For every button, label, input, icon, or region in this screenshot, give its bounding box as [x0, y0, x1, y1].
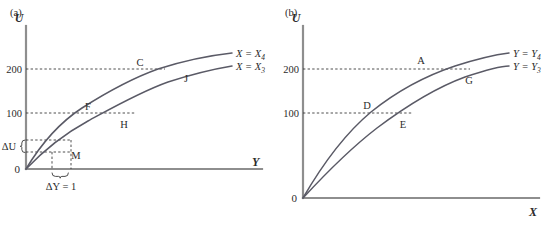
panel-a-curve-label-upper-text: X = X [235, 48, 262, 59]
panel-a-point-M: M [71, 150, 81, 161]
panel-b-curve-label-upper-text: Y = Y [513, 48, 538, 59]
panel-b-plot: (b) U X 0 200 100 Y = Y4 Y = Y3 A [273, 0, 553, 225]
panel-a-curve-label-lower-sub: 3 [260, 66, 265, 75]
panel-b-ytick-100: 100 [283, 108, 299, 119]
panel-a: (a) U Y 0 200 100 ΔU [0, 0, 276, 225]
panel-a-point-F: F [85, 101, 91, 112]
panel-a-y-axis-label: U [15, 11, 25, 25]
panel-a-point-H: H [120, 119, 128, 130]
panel-b-point-G: G [465, 75, 473, 86]
figure-container: (a) U Y 0 200 100 ΔU [0, 0, 553, 225]
panel-a-curve-label-upper-sub: 4 [261, 53, 265, 62]
panel-a-ytick-200: 200 [6, 64, 22, 75]
panel-b-curve-label-lower: Y = Y3 [513, 61, 541, 75]
panel-a-curve-label-upper: X = X4 [235, 48, 265, 62]
panel-a-deltay-brace [52, 173, 68, 178]
panel-a-curve-upper [26, 53, 232, 169]
panel-b-curve-label-lower-text: Y = Y [513, 61, 538, 72]
panel-a-ytick-100: 100 [6, 108, 22, 119]
panel-a-deltay-label: ΔY = 1 [46, 181, 76, 192]
panel-a-origin-label: 0 [15, 163, 21, 175]
panel-b-point-E: E [400, 119, 406, 130]
panel-b-curve-label-lower-sub: 3 [536, 66, 541, 75]
panel-a-point-C: C [136, 57, 143, 68]
panel-b-x-axis-label: X [528, 205, 538, 219]
panel-b: (b) U X 0 200 100 Y = Y4 Y = Y3 A [273, 0, 553, 225]
panel-a-deltau-label: ΔU [2, 141, 17, 152]
panel-b-ytick-200: 200 [283, 64, 299, 75]
panel-a-plot: (a) U Y 0 200 100 ΔU [0, 0, 276, 225]
panel-b-y-axis-label: U [292, 11, 302, 25]
panel-b-origin-label: 0 [292, 192, 298, 204]
panel-b-curve-lower [303, 66, 509, 198]
panel-a-x-axis-label: Y [252, 155, 261, 169]
panel-a-point-J: J [184, 73, 188, 84]
panel-b-curve-label-upper: Y = Y4 [513, 48, 541, 62]
panel-a-curve-label-lower: X = X3 [235, 61, 265, 75]
panel-b-point-A: A [417, 55, 425, 66]
panel-b-point-D: D [363, 100, 371, 111]
panel-a-deltau-brace [20, 140, 25, 153]
panel-b-curve-label-upper-sub: 4 [537, 53, 541, 62]
panel-a-curve-label-lower-text: X = X [235, 61, 262, 72]
